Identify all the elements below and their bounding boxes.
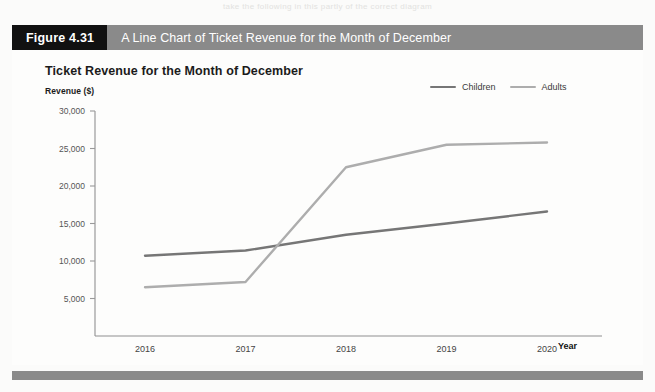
x-tick-label: 2017 [235,344,255,354]
y-tick-label: 10,000 [59,256,85,266]
y-tick-label: 20,000 [59,181,85,191]
y-axis-ticks: 5,00010,00015,00020,00025,00030,000 [59,106,95,304]
chart-panel: Ticket Revenue for the Month of December… [12,50,643,365]
x-tick-label: 2019 [436,344,456,354]
x-tick-label: 2016 [135,344,155,354]
figure-caption: A Line Chart of Ticket Revenue for the M… [107,25,451,50]
x-axis-ticks: 20162017201820192020 [135,344,557,354]
x-tick-label: 2018 [336,344,356,354]
y-tick-label: 5,000 [64,294,86,304]
series-lines [145,143,547,288]
plot-area: 5,00010,00015,00020,00025,00030,000 2016… [12,50,643,365]
y-tick-label: 15,000 [59,219,85,229]
bottom-rule [12,371,643,380]
x-tick-label: 2020 [537,344,557,354]
y-tick-label: 30,000 [59,106,85,116]
figure-number: Figure 4.31 [12,25,107,50]
line-chart-svg: 5,00010,00015,00020,00025,00030,000 2016… [12,50,643,365]
series-line-children [145,212,547,256]
x-axis-title: Year [558,341,577,351]
figure-caption-bar: Figure 4.31 A Line Chart of Ticket Reven… [12,25,643,50]
page-bleed-text: take the following in this partly of the… [0,2,655,11]
y-tick-label: 25,000 [59,144,85,154]
series-line-adults [145,143,547,288]
